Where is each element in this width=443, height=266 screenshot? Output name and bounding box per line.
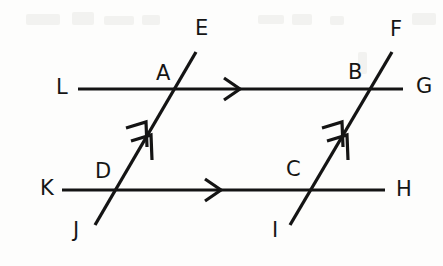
label-A: A	[156, 63, 171, 84]
label-D: D	[95, 161, 111, 182]
label-C: C	[286, 159, 301, 180]
line-IF	[290, 52, 392, 225]
label-K: K	[40, 178, 54, 199]
label-B: B	[348, 62, 363, 83]
geometry-figure: L A E B F G K D J C I H	[0, 0, 443, 266]
label-J: J	[73, 220, 80, 241]
diagram-canvas	[0, 0, 443, 266]
label-E: E	[195, 18, 209, 39]
label-G: G	[416, 76, 433, 97]
label-F: F	[390, 19, 402, 40]
label-H: H	[396, 179, 412, 200]
label-I: I	[272, 220, 279, 241]
label-L: L	[56, 77, 68, 98]
